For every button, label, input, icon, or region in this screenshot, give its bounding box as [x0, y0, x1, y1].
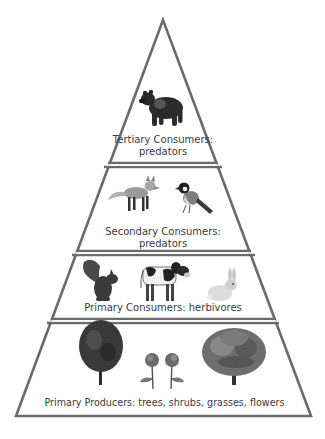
fox-icon [108, 175, 160, 211]
secondary-label-line1: Secondary Consumers: [83, 226, 243, 238]
primary-producers-label-text: Primary Producers: trees, shrubs, grasse… [22, 397, 307, 409]
flower-icon [140, 353, 159, 389]
rabbit-icon [207, 268, 237, 301]
tertiary-label-line1: Tertiary Consumers: [93, 134, 233, 146]
tertiary-consumers-label: Tertiary Consumers: predators [93, 134, 233, 158]
cow-icon [141, 262, 190, 301]
flower-icon [165, 353, 184, 389]
tertiary-label-line2: predators [93, 146, 233, 158]
bird-icon [175, 183, 213, 215]
secondary-consumers-label: Secondary Consumers: predators [83, 226, 243, 250]
squirrel-icon [83, 260, 118, 301]
bear-icon [139, 90, 183, 126]
food-pyramid-diagram [0, 0, 325, 439]
tree-icon [79, 320, 123, 385]
secondary-label-line2: predators [83, 238, 243, 250]
oak-tree-icon [202, 328, 266, 385]
primary-producers-label: Primary Producers: trees, shrubs, grasse… [22, 397, 307, 409]
primary-consumers-label: Primary Consumers: herbivores [53, 302, 273, 314]
pyramid-outline [16, 20, 311, 416]
primary-consumers-label-text: Primary Consumers: herbivores [53, 302, 273, 314]
